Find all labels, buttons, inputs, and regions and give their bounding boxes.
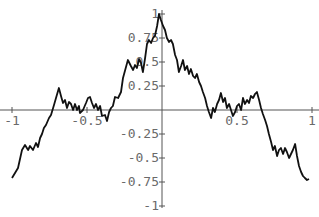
y-tick-label: -0.25 <box>120 126 159 141</box>
x-tick-label: 1 <box>308 113 316 128</box>
y-tick-label: -1 <box>143 198 159 213</box>
x-tick-label: -1 <box>4 113 20 128</box>
x-tick-label: -0.5 <box>71 113 102 128</box>
axes <box>0 10 319 208</box>
y-tick-label: 0.25 <box>128 78 159 93</box>
y-tick-label: -0.75 <box>120 174 159 189</box>
y-tick-label: -0.5 <box>128 150 159 165</box>
data-series-line <box>12 14 309 180</box>
x-tick-label: 0.5 <box>225 113 248 128</box>
line-chart: -1-0.50.51 10.750.50.25-0.25-0.5-0.75-1 <box>0 0 319 217</box>
